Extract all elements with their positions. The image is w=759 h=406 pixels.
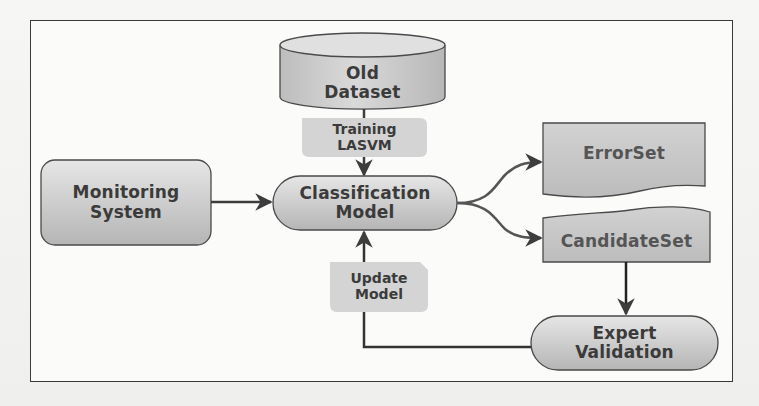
update-model-label-box [330, 262, 428, 312]
expert-validation-node[interactable] [531, 316, 718, 370]
candidateset-node[interactable] [543, 207, 710, 262]
old-dataset-node[interactable] [280, 33, 445, 109]
edge-expert-to-update [364, 312, 531, 347]
monitoring-system-node[interactable] [41, 160, 211, 245]
flowchart-canvas [0, 0, 759, 406]
classification-model-node[interactable] [273, 176, 457, 230]
edge-classification-to-errorset [457, 162, 541, 203]
errorset-node[interactable] [543, 123, 705, 197]
edge-classification-to-candidateset [457, 203, 541, 238]
training-lasvm-label-box [302, 118, 427, 157]
